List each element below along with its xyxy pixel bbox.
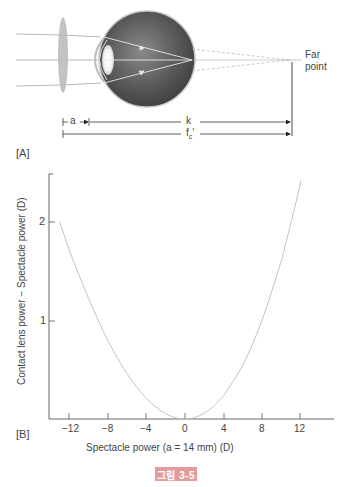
panel-b-label: [B]	[16, 429, 29, 440]
dim-fc-label: fc′	[186, 128, 194, 140]
eyeball-icon	[95, 11, 195, 107]
x-tick-label-neg12: −12	[62, 424, 79, 434]
eye-diagram	[16, 11, 302, 138]
far-point-label: Far point	[305, 49, 327, 73]
x-axis-title: Spectacle power (a = 14 mm) (D)	[86, 443, 234, 453]
y-ticks	[49, 222, 55, 321]
figure-canvas	[0, 0, 349, 487]
dim-fc-prime: ′	[192, 127, 194, 138]
dim-k-label: k	[186, 116, 191, 126]
x-tick-label-8: 8	[259, 424, 265, 434]
chart-b	[49, 174, 334, 419]
y-tick-label-2: 2	[39, 216, 45, 227]
spectacle-lens-icon	[58, 17, 68, 93]
y-tick-label-1: 1	[40, 315, 46, 326]
dimension-lines	[63, 118, 290, 138]
far-point-label-line1: Far	[305, 49, 327, 61]
far-point-extensions	[192, 49, 302, 71]
x-ticks	[69, 413, 300, 419]
panel-a-label: [A]	[16, 148, 29, 159]
dim-a-label: a	[70, 116, 76, 126]
x-tick-label-neg8: −8	[102, 424, 113, 434]
power-difference-curve	[59, 181, 301, 419]
x-tick-label-neg4: −4	[140, 424, 151, 434]
far-point-label-line2: point	[305, 61, 327, 73]
x-tick-label-0: 0	[182, 424, 188, 434]
x-tick-label-12: 12	[294, 424, 305, 434]
x-tick-label-4: 4	[221, 424, 227, 434]
figure-caption-badge: 그림 3-5	[155, 467, 197, 481]
y-axis-title: Contact lens power − Spectacle power (D)	[17, 197, 27, 385]
